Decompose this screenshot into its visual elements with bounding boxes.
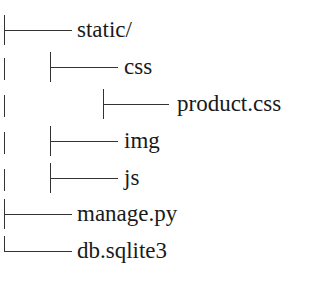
tree-row-manage-py: manage.py	[0, 199, 309, 229]
pipe-connector	[4, 132, 5, 154]
file-label-db-sqlite3: db.sqlite3	[77, 236, 167, 266]
corner-connector-horizontal	[4, 251, 72, 252]
tee-connector-horizontal	[4, 214, 72, 215]
tree-row-css: css	[0, 52, 309, 82]
file-label-product-css: product.css	[177, 89, 281, 119]
folder-label-js: js	[124, 163, 139, 193]
tee-connector-horizontal	[50, 67, 118, 68]
tree-row-js: js	[0, 163, 309, 193]
pipe-connector	[4, 95, 5, 117]
folder-label-css: css	[124, 52, 152, 82]
tree-row-img: img	[0, 126, 309, 156]
pipe-connector	[4, 169, 5, 191]
tree-row-db-sqlite3: db.sqlite3	[0, 236, 309, 266]
pipe-connector	[4, 58, 5, 80]
tee-connector-horizontal	[4, 30, 72, 31]
tee-connector-horizontal	[50, 178, 118, 179]
file-label-manage-py: manage.py	[77, 199, 177, 229]
folder-label-img: img	[124, 126, 160, 156]
tree-row-static: static/	[0, 15, 309, 45]
tee-connector-horizontal	[103, 104, 169, 105]
tree-row-product-css: product.css	[0, 89, 309, 119]
tee-connector-horizontal	[50, 141, 118, 142]
folder-label-static: static/	[77, 15, 132, 45]
corner-connector-vertical	[4, 236, 5, 252]
